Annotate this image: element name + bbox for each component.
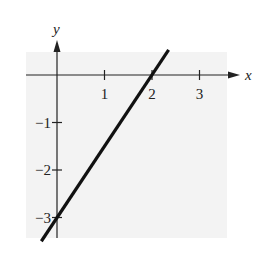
- x-tick-label: 2: [148, 86, 156, 102]
- line-chart: xy123−1−2−3: [0, 0, 263, 254]
- plot-background: [26, 52, 227, 238]
- y-tick-label: −1: [35, 115, 51, 131]
- x-tick-label: 1: [101, 86, 109, 102]
- y-axis-label: y: [51, 21, 60, 37]
- y-axis-arrow-icon: [54, 40, 61, 52]
- x-axis-arrow-icon: [228, 72, 240, 79]
- x-tick-label: 3: [196, 86, 204, 102]
- y-tick-label: −2: [35, 162, 51, 178]
- y-tick-label: −3: [35, 210, 51, 226]
- x-axis-label: x: [244, 67, 252, 83]
